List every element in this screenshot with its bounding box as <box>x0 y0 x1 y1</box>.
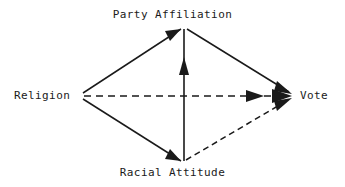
edge-racial-to-party <box>179 29 189 161</box>
edge-religion-to-vote-mid-arrowhead <box>246 90 264 102</box>
edge-party-to-vote <box>187 29 292 94</box>
edge-religion-to-vote <box>84 89 292 103</box>
edge-religion-to-party-line <box>83 29 181 93</box>
node-label-vote: Vote <box>300 89 328 102</box>
edge-religion-to-party <box>83 29 181 93</box>
path-diagram: Party Affiliation Religion Vote Racial A… <box>0 0 345 187</box>
edge-religion-to-racial-line <box>83 99 181 161</box>
node-label-party-affiliation: Party Affiliation <box>0 8 345 21</box>
node-label-religion: Religion <box>14 89 70 102</box>
edge-party-to-vote-line <box>187 29 289 92</box>
edge-religion-to-party-arrowhead <box>165 29 181 41</box>
edge-religion-to-racial-arrowhead <box>165 149 181 161</box>
edge-racial-to-vote-line <box>186 100 288 160</box>
node-label-racial-attitude: Racial Attitude <box>0 166 345 179</box>
edge-religion-to-racial <box>83 99 181 161</box>
edge-racial-to-party-arrowhead <box>179 57 189 75</box>
edge-racial-to-vote <box>186 98 292 160</box>
